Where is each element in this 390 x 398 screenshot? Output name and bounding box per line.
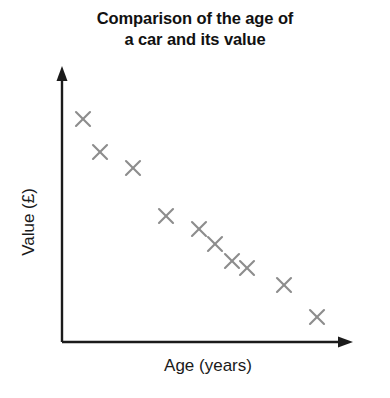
data-point-marker [126,161,140,175]
x-axis-arrowhead [338,337,353,348]
data-point-marker [159,209,173,223]
data-point-marker [240,261,254,275]
scatter-chart-figure: Comparison of the age of a car and its v… [0,0,390,398]
data-point-marker [277,278,291,292]
data-point-marker [192,222,206,236]
data-point-group [76,112,324,324]
data-point-marker [225,254,239,268]
x-axis-label: Age (years) [62,356,354,376]
x-axis [62,337,353,348]
y-axis-arrowhead [57,66,68,81]
data-point-marker [208,237,222,251]
y-axis-label: Value (£) [19,152,39,292]
data-point-marker [76,112,90,126]
data-point-marker [310,310,324,324]
y-axis [57,66,68,342]
data-point-marker [93,145,107,159]
plot-area [0,0,390,398]
